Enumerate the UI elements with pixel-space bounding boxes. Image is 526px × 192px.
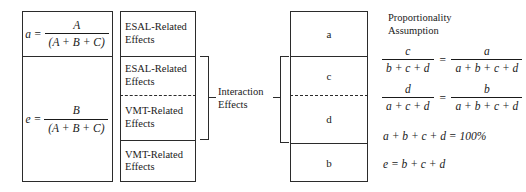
formula-a-fraction: A (A + B + C) — [45, 18, 109, 50]
equation-1-right-numerator: a — [480, 44, 494, 59]
formula-a-numerator: A — [69, 18, 84, 33]
effects-cell-3: VMT-Related Effects — [120, 95, 196, 140]
equation-2-right-fraction: b a + b + c + d — [451, 82, 522, 114]
effects-cell-2: ESAL-Related Effects — [120, 56, 196, 95]
interaction-effects-line1: Interaction — [218, 86, 280, 99]
proportionality-assumption-heading: Proportionality Assumption — [388, 12, 508, 38]
equation-2-left-numerator: d — [401, 82, 415, 97]
interaction-effects-line2: Effects — [218, 99, 280, 112]
equation-3-total: a + b + c + d = 100% — [383, 130, 486, 142]
effects-cell-1: ESAL-Related Effects — [120, 11, 196, 56]
equation-2-operator: = — [435, 92, 451, 104]
interaction-bracket-right — [280, 56, 289, 143]
equation-1-left-denominator: b + c + d — [382, 60, 434, 75]
formula-e-lhs: e = — [26, 113, 44, 125]
equation-1-left-numerator: c — [401, 44, 414, 59]
proportionality-heading-line1: Proportionality — [388, 12, 508, 25]
formula-e-numerator: B — [69, 103, 84, 118]
equation-4-e-definition: e = b + c + d — [383, 158, 445, 170]
formula-e-denominator: (A + B + C) — [44, 120, 108, 135]
formula-cell-e: e = B (A + B + C) — [22, 56, 113, 182]
effects-cell-2-line1: ESAL-Related — [125, 63, 187, 75]
effects-cell-1-line2: Effects — [125, 34, 187, 46]
diagram-canvas: a = A (A + B + C) e = B (A + B + C) ESAL… — [0, 0, 526, 192]
equation-2: d a + c + d = b a + b + c + d — [381, 82, 523, 114]
equation-2-right-numerator: b — [480, 82, 494, 97]
interaction-bracket-left — [200, 56, 209, 140]
equation-2-left-fraction: d a + c + d — [382, 82, 434, 114]
equation-1-operator: = — [435, 54, 451, 66]
equation-1-right-denominator: a + b + c + d — [451, 60, 522, 75]
formula-a-denominator: (A + B + C) — [45, 34, 109, 49]
effects-cell-4-line2: Effects — [125, 161, 183, 173]
proportion-cell-c: c — [290, 56, 368, 95]
interaction-effects-label: Interaction Effects — [218, 86, 280, 112]
equation-2-left-denominator: a + c + d — [382, 98, 434, 113]
effects-cell-4: VMT-Related Effects — [120, 140, 196, 182]
interaction-bracket-right-tick — [273, 97, 280, 98]
equation-1-right-fraction: a a + b + c + d — [451, 44, 522, 76]
effects-cell-4-line1: VMT-Related — [125, 149, 183, 161]
effects-cell-3-line2: Effects — [125, 118, 183, 130]
effects-cell-1-line1: ESAL-Related — [125, 21, 187, 33]
proportion-cell-a: a — [290, 11, 368, 56]
formula-a-lhs: a = — [25, 28, 43, 40]
equation-2-right-denominator: a + b + c + d — [451, 98, 522, 113]
proportion-cell-b: b — [290, 143, 368, 182]
effects-cell-3-line1: VMT-Related — [125, 105, 183, 117]
proportion-cell-d: d — [290, 95, 368, 143]
effects-cell-2-line2: Effects — [125, 76, 187, 88]
formula-cell-a: a = A (A + B + C) — [22, 11, 113, 56]
interaction-bracket-left-tick — [209, 97, 216, 98]
formula-e-fraction: B (A + B + C) — [44, 103, 108, 135]
equation-1: c b + c + d = a a + b + c + d — [381, 44, 523, 76]
proportionality-heading-line2: Assumption — [388, 25, 508, 38]
equation-1-left-fraction: c b + c + d — [382, 44, 434, 76]
